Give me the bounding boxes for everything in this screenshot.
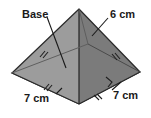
- pyramid-figure: Base 6 cm 7 cm 7 cm: [0, 0, 151, 118]
- pyramid-front-left-face: [12, 9, 79, 104]
- base-edge-left-label: 7 cm: [24, 93, 49, 104]
- slant-edge-label: 6 cm: [110, 9, 135, 20]
- base-edge-right-label: 7 cm: [113, 90, 138, 101]
- base-label: Base: [22, 9, 48, 20]
